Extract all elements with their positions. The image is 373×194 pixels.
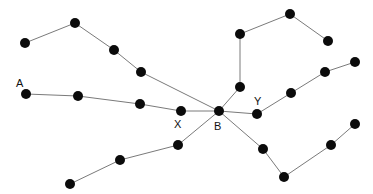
graph-edge	[240, 14, 290, 34]
graph-edge	[120, 145, 178, 160]
graph-edge	[290, 14, 328, 41]
graph-node	[286, 88, 296, 98]
graph-edge	[78, 96, 140, 104]
node-label-x: X	[174, 118, 182, 130]
graph-edge	[141, 72, 219, 111]
graph-node	[279, 172, 289, 182]
graph-node	[135, 99, 145, 109]
graph-node	[136, 67, 146, 77]
node-label-y: Y	[254, 95, 262, 107]
graph-edge	[219, 111, 257, 114]
graph-nodes-layer	[20, 9, 360, 189]
graph-node-y	[252, 109, 262, 119]
graph-node	[258, 144, 268, 154]
graph-node	[235, 29, 245, 39]
graph-node	[323, 36, 333, 46]
graph-edge	[257, 93, 291, 114]
graph-node	[20, 38, 30, 48]
graph-node-x	[176, 106, 186, 116]
graph-edge	[70, 160, 120, 184]
graph-node	[285, 9, 295, 19]
graph-node	[65, 179, 75, 189]
graph-edge	[178, 111, 219, 145]
graph-edge	[26, 94, 78, 96]
graph-node-a	[21, 89, 31, 99]
graph-edge	[291, 72, 325, 93]
node-label-a: A	[16, 77, 24, 89]
graph-node	[320, 67, 330, 77]
graph-node	[115, 155, 125, 165]
graph-node	[109, 45, 119, 55]
graph-edge	[114, 50, 141, 72]
node-label-b: B	[214, 120, 221, 132]
network-graph-figure: AXBY	[0, 0, 373, 194]
graph-node	[73, 91, 83, 101]
graph-node	[326, 140, 336, 150]
graph-node	[173, 140, 183, 150]
graph-edge	[140, 104, 181, 111]
graph-node	[350, 57, 360, 67]
graph-edge	[284, 145, 331, 177]
graph-node	[350, 119, 360, 129]
graph-edge	[75, 23, 114, 50]
graph-node	[70, 18, 80, 28]
graph-node	[235, 82, 245, 92]
graph-edge	[263, 149, 284, 177]
graph-node-b	[214, 106, 224, 116]
graph-edge	[25, 23, 75, 43]
network-graph-canvas: AXBY	[0, 0, 373, 194]
